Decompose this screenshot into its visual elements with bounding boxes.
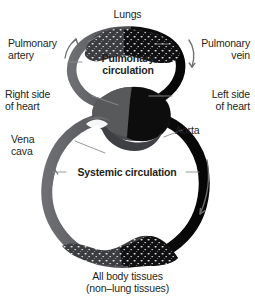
label-pulmonary-circulation: Pulmonary circulation [72, 52, 184, 76]
label-vena-cava: Vena cava [11, 133, 81, 157]
label-systemic-circulation: Systemic circulation [57, 166, 197, 178]
circulation-diagram: Lungs Pulmonary artery Right side of hea… [0, 0, 255, 306]
label-all-body-tissues: All body tissues(non–lung tissues) [0, 270, 255, 294]
label-right-side-of-heart: Right side of heart [5, 88, 95, 112]
label-all-body-tissues-sub: (non–lung tissues) [86, 282, 169, 294]
label-left-side-of-heart: Left side of heart [158, 88, 250, 112]
label-lungs: Lungs [0, 8, 255, 20]
label-all-body-tissues-main: All body tissues [92, 270, 163, 282]
tissue-capillary-bed-icon [62, 236, 178, 266]
label-aorta: Aorta [175, 124, 247, 136]
